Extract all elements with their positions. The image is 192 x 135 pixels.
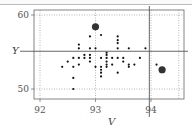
data-point [128,47,130,49]
data-point [106,61,108,63]
data-point [106,57,108,59]
data-point [78,63,80,65]
data-point [106,54,108,56]
data-point [117,42,119,44]
x-tick-label: 92 [34,105,45,115]
data-point [89,47,91,49]
data-point [100,34,102,36]
data-point [89,35,91,37]
gridlines [34,10,184,99]
data-point [100,69,102,71]
data-point [144,47,146,49]
data-point [72,57,74,59]
y-tick-label: 60 [18,10,30,20]
data-point [128,63,130,65]
data-point [78,57,80,59]
data-point [133,63,135,65]
scatter-chart: 9293945060 Y V [0,0,192,135]
data-point [94,66,96,68]
highlighted-point [92,23,99,30]
y-tick-label: 50 [18,84,30,94]
data-point [100,66,102,68]
y-axis-label: Y [12,45,20,56]
data-points [61,23,166,90]
data-point [67,61,69,63]
x-axis-label: V [108,116,117,127]
plot-frame [34,10,184,99]
data-point [83,54,85,56]
data-point [117,39,119,41]
data-point [106,52,108,54]
data-point [111,57,113,59]
data-point [89,61,91,63]
data-point [122,57,124,59]
data-point [106,63,108,65]
data-point [78,44,80,46]
data-point [72,77,74,79]
data-point [72,66,74,68]
data-point [155,63,157,65]
data-point [94,47,96,49]
data-point [89,57,91,59]
data-point [117,57,119,59]
data-point [111,63,113,65]
data-point [117,35,119,37]
data-point [78,47,80,49]
x-tick-label: 93 [90,105,102,115]
data-point [83,57,85,59]
data-point [117,72,119,74]
data-point [128,66,130,68]
highlighted-point [159,66,166,73]
data-point [100,57,102,59]
data-point [100,75,102,77]
x-tick-label: 94 [145,105,157,115]
data-point [89,54,91,56]
reference-lines [20,6,188,117]
data-point [106,66,108,68]
data-point [139,57,141,59]
data-point [117,47,119,49]
data-point [61,66,63,68]
data-point [100,72,102,74]
data-point [72,88,74,90]
data-point [122,61,124,63]
